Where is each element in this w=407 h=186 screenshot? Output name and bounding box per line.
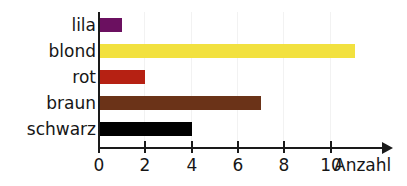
category-label-schwarz: schwarz	[27, 120, 96, 139]
x-tick-0	[98, 141, 100, 153]
x-tick-8	[283, 141, 285, 153]
bar-rot	[99, 70, 145, 84]
gridline-6	[237, 12, 238, 148]
category-label-braun: braun	[46, 94, 96, 113]
bar-chart: lila blond rot braun schwarz 0 2 4 6 8 1…	[0, 0, 407, 186]
bar-blond	[99, 44, 355, 58]
x-tick-label-0: 0	[84, 155, 114, 175]
gridline-8	[283, 12, 284, 148]
x-tick-4	[191, 141, 193, 153]
x-tick-label-8: 8	[269, 155, 299, 175]
category-label-blond: blond	[49, 42, 96, 61]
x-axis-arrow-icon	[382, 142, 393, 154]
bar-schwarz	[99, 122, 192, 136]
x-tick-2	[144, 141, 146, 153]
category-label-rot: rot	[72, 68, 96, 87]
x-tick-label-4: 4	[177, 155, 207, 175]
x-tick-label-2: 2	[130, 155, 160, 175]
x-tick-10	[330, 141, 332, 153]
x-axis-title: Anzahl	[334, 155, 391, 175]
x-tick-label-6: 6	[223, 155, 253, 175]
category-label-lila: lila	[71, 16, 96, 35]
bar-lila	[99, 18, 122, 32]
bar-braun	[99, 96, 261, 110]
y-axis-line	[98, 12, 100, 148]
gridline-10	[330, 12, 331, 148]
plot-area: lila blond rot braun schwarz 0 2 4 6 8 1…	[0, 0, 407, 186]
x-axis-line	[98, 147, 386, 149]
x-tick-6	[237, 141, 239, 153]
